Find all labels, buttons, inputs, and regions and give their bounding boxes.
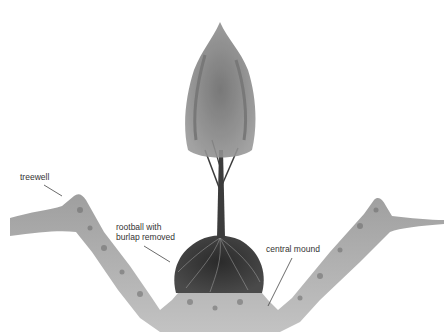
central-mound-leader — [268, 258, 292, 306]
label-rootball-line1: rootball with — [116, 222, 161, 232]
label-rootball-line2: burlap removed — [116, 232, 175, 242]
label-treewell: treewell — [20, 172, 49, 182]
rootball — [174, 236, 263, 294]
rootball-leader — [144, 246, 170, 262]
label-central-mound: central mound — [266, 244, 320, 254]
diagram-illustration — [0, 0, 448, 336]
treewell-leader — [44, 185, 62, 196]
foliage — [185, 22, 255, 158]
planting-diagram: treewell rootball with burlap removed ce… — [0, 0, 448, 336]
